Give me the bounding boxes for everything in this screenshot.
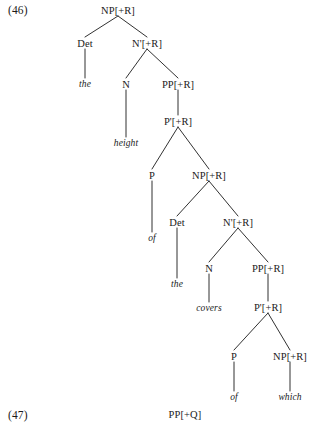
tree-node-pbar1: P'[+R]: [164, 116, 192, 127]
tree-node-np2: NP[+R]: [192, 170, 226, 181]
tree-node-the1: the: [79, 79, 91, 89]
tree-edge-nbar2-n2: [209, 228, 238, 262]
tree-node-nbar1: N'[+R]: [132, 38, 162, 49]
tree-edge-nbar1-pp1: [147, 49, 178, 78]
tree-edge-pbar2-np3: [268, 313, 290, 350]
next-tree-root-node: PP[+Q]: [169, 409, 202, 420]
tree-edge-nbar2-pp2: [238, 228, 268, 262]
tree-node-the2: the: [171, 279, 183, 289]
tree-node-of2: of: [230, 392, 238, 402]
tree-node-pbar2: P'[+R]: [254, 302, 282, 313]
tree-edge-pbar1-p1: [152, 127, 178, 169]
tree-node-det2: Det: [169, 217, 184, 228]
tree-node-height: height: [114, 138, 138, 148]
tree-node-n1: N: [122, 79, 130, 90]
tree-edge-pbar2-p2: [234, 313, 268, 350]
tree-node-pp2: PP[+R]: [252, 263, 284, 274]
tree-node-pp1: PP[+R]: [162, 79, 194, 90]
tree-node-nbar2: N'[+R]: [223, 217, 253, 228]
example-number-46: (46): [8, 4, 28, 16]
tree-edge-np1-nbar1: [118, 16, 147, 37]
tree-node-covers: covers: [196, 303, 221, 313]
tree-edge-np2-nbar2: [209, 181, 238, 216]
tree-edge-nbar1-n1: [126, 49, 147, 78]
tree-edges: [0, 0, 322, 428]
tree-node-np3: NP[+R]: [273, 351, 307, 362]
tree-edge-pbar1-np2: [178, 127, 209, 169]
tree-node-of1: of: [148, 233, 156, 243]
tree-node-p1: P: [149, 170, 155, 181]
syntax-tree-figure: NP[+R]DetN'[+R]theNPP[+R]heightP'[+R]PNP…: [0, 0, 322, 428]
tree-node-n2: N: [205, 263, 213, 274]
tree-node-np1: NP[+R]: [101, 5, 135, 16]
example-number-47: (47): [8, 409, 28, 421]
tree-node-which: which: [278, 392, 301, 402]
tree-edge-np2-det2: [177, 181, 209, 216]
tree-node-p2: P: [231, 351, 237, 362]
tree-edge-np1-det1: [85, 16, 118, 37]
tree-node-det1: Det: [77, 38, 92, 49]
